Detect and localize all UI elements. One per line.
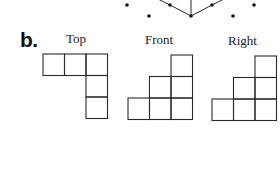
grid-square: [234, 78, 256, 100]
grid-square: [150, 77, 172, 99]
grid-square: [171, 98, 193, 120]
orthographic-views: [0, 0, 280, 175]
grid-square: [150, 98, 172, 120]
grid-square: [86, 54, 108, 76]
grid-square: [65, 54, 87, 76]
grid-square: [86, 97, 108, 119]
grid-square: [234, 99, 256, 121]
grid-square: [255, 56, 277, 78]
right-view-grid: [212, 56, 277, 121]
grid-square: [86, 76, 108, 98]
grid-square: [43, 54, 65, 76]
grid-square: [171, 55, 193, 77]
grid-square: [212, 99, 234, 121]
top-view-grid: [43, 54, 108, 119]
grid-square: [255, 99, 277, 121]
front-view-grid: [128, 55, 193, 120]
grid-square: [171, 77, 193, 99]
grid-square: [128, 98, 150, 120]
grid-square: [255, 78, 277, 100]
